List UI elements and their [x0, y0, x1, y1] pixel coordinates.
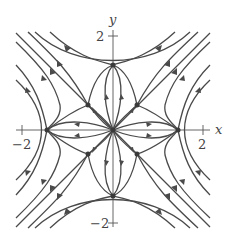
phase-portrait-figure: x y −2 2 2 −2	[0, 0, 235, 240]
arrow-icon	[92, 147, 97, 153]
phase-portrait-svg: x y −2 2 2 −2	[0, 0, 235, 240]
inner-top-r	[113, 65, 121, 130]
bottom-outer-arc	[35, 200, 190, 229]
equilibrium-origin	[111, 128, 116, 133]
y-tick-label-neg2: −2	[90, 216, 109, 231]
arrow-icon	[129, 147, 134, 153]
equilibrium-lower-left	[86, 152, 91, 157]
arrow-icon	[92, 107, 97, 113]
arrow-icon	[119, 94, 124, 100]
arrow-icon	[74, 133, 80, 138]
arrow-icon	[179, 75, 185, 81]
equilibrium-lower-right	[135, 152, 140, 157]
equilibrium-upper-left	[86, 103, 91, 108]
equilibrium-right	[176, 128, 181, 133]
arrow-icon	[146, 133, 152, 138]
x-axis-label: x	[215, 122, 223, 137]
equilibrium-upper-right	[135, 103, 140, 108]
arrow-icon	[164, 193, 170, 200]
y-tick-label-2: 2	[96, 29, 104, 44]
arrow-icon	[25, 170, 31, 176]
arrow-icon	[25, 87, 31, 93]
equilibrium-top	[111, 63, 116, 68]
arrow-icon	[179, 179, 185, 185]
traj-ur-4	[178, 65, 210, 130]
x-tick-label-2: 2	[198, 137, 206, 152]
traj-ul-1	[28, 32, 88, 105]
y-axis-label: y	[108, 12, 117, 27]
arrow-icon	[129, 107, 134, 113]
inner-bot-r	[113, 130, 121, 196]
arrow-icon	[146, 122, 152, 127]
arrow-icon	[164, 60, 170, 67]
arrow-icon	[195, 170, 201, 176]
equilibrium-bottom	[111, 194, 116, 199]
arrow-icon	[74, 122, 80, 127]
equilibrium-left	[45, 128, 50, 133]
x-tick-label-neg2: −2	[12, 137, 31, 152]
arrow-icon	[195, 87, 201, 93]
arrow-icon	[119, 160, 124, 166]
